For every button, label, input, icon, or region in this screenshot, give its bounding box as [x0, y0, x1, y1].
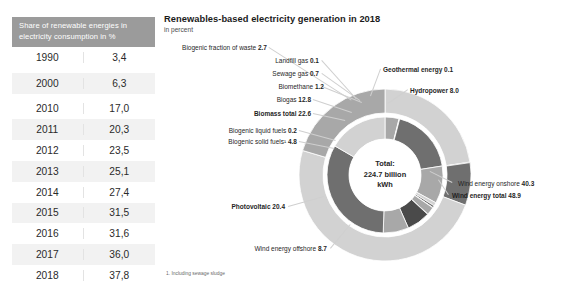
- label-biogas: Biogas 12.8: [200, 96, 311, 104]
- table-row: 201837,8: [12, 265, 155, 286]
- donut-svg: [298, 88, 472, 262]
- label-text: Biogenic liquid fuels: [229, 127, 286, 134]
- table-row: 20006,3: [12, 73, 155, 94]
- donut-chart: Total: 224.7 billion kWh: [298, 88, 472, 262]
- label-text: Biogas: [277, 96, 297, 103]
- label-sewage-gas: Sewage gas 0.7: [200, 70, 319, 78]
- table-row: 201427,4: [12, 182, 155, 203]
- label-wind-energy-onshore: Wind energy onshore 40.3: [458, 180, 534, 188]
- table-cell-value: 6,3: [84, 78, 156, 89]
- chart-title: Renewables-based electricity generation …: [164, 14, 380, 24]
- label-biogenic-liquid-fuels: Biogenic liquid fuels 0.2: [160, 127, 297, 135]
- label-geothermal-energy: Geothermal energy 0.1: [383, 66, 453, 74]
- label-wind-energy-offshore: Wind energy offshore 8.7: [180, 245, 327, 253]
- table-cell-value: 23,5: [84, 145, 156, 156]
- label-text: Wind energy total: [452, 192, 506, 199]
- table-cell-year: 2012: [12, 145, 84, 156]
- label-text: Biogenic fraction of waste: [182, 44, 256, 51]
- table-cell-year: 2017: [12, 249, 84, 260]
- label-value: 8.0: [450, 87, 459, 94]
- table-row: 201631,6: [12, 223, 155, 244]
- table-cell-value: 3,4: [84, 52, 156, 63]
- table-header: Share of renewable energies in electrici…: [12, 17, 155, 47]
- chart-subtitle: in percent: [164, 26, 193, 33]
- table-cell-year: 2000: [12, 78, 84, 89]
- table-cell-value: 25,1: [84, 166, 156, 177]
- label-hydropower: Hydropower 8.0: [410, 87, 459, 95]
- label-value: 1.2: [315, 83, 324, 90]
- table-cell-year: 2015: [12, 207, 84, 218]
- label-text: Geothermal energy: [383, 66, 442, 73]
- renewable-share-table: Share of renewable energies in electrici…: [12, 17, 155, 286]
- label-text: Wind energy offshore: [254, 245, 316, 252]
- label-biomethane: Biomethane 1.2: [200, 83, 324, 91]
- table-row: 19903,4: [12, 47, 155, 68]
- label-value: 4.8: [288, 138, 297, 145]
- label-biogenic-solid-fuels: Biogenic solid fuels¹ 4.8: [160, 138, 297, 146]
- label-value: 0.7: [310, 70, 319, 77]
- label-text: Biomass total: [254, 110, 297, 117]
- table-body: 19903,420006,3201017,0201120,3201223,520…: [12, 47, 155, 286]
- table-cell-year: 1990: [12, 52, 84, 63]
- table-cell-value: 17,0: [84, 103, 156, 114]
- label-value: 0.1: [444, 66, 453, 73]
- table-row: 201325,1: [12, 161, 155, 182]
- label-text: Biogenic solid fuels¹: [228, 138, 286, 145]
- table-cell-value: 20,3: [84, 124, 156, 135]
- label-text: Hydropower: [410, 87, 448, 94]
- table-cell-year: 2016: [12, 228, 84, 239]
- table-cell-value: 36,0: [84, 249, 156, 260]
- label-value: 0.2: [288, 127, 297, 134]
- donut-center-hole: [349, 139, 421, 211]
- label-text: Sewage gas: [272, 70, 308, 77]
- table-cell-year: 2011: [12, 124, 84, 135]
- label-value: 40.3: [522, 180, 535, 187]
- label-text: Landfill gas: [275, 57, 308, 64]
- table-cell-value: 31,6: [84, 228, 156, 239]
- table-cell-year: 2018: [12, 270, 84, 281]
- label-landfill-gas: Landfill gas 0.1: [200, 57, 319, 65]
- table-row: 201017,0: [12, 99, 155, 120]
- label-value: 2.7: [258, 44, 267, 51]
- label-value: 12.8: [298, 96, 311, 103]
- label-value: 8.7: [318, 245, 327, 252]
- table-row: 201223,5: [12, 140, 155, 161]
- table-cell-year: 2010: [12, 103, 84, 114]
- label-photovoltaic: Photovoltaic 20.4: [160, 203, 285, 211]
- label-text: Photovoltaic: [232, 203, 271, 210]
- table-cell-year: 2014: [12, 187, 84, 198]
- label-text: Biomethane: [278, 83, 313, 90]
- label-biogenic-fraction-of-waste: Biogenic fraction of waste 2.7: [150, 44, 267, 52]
- label-text: Wind energy onshore: [458, 180, 520, 187]
- label-value: 22.6: [298, 110, 311, 117]
- table-cell-year: 2013: [12, 166, 84, 177]
- chart-footnote: 1. Including sewage sludge: [166, 271, 225, 276]
- table-cell-value: 31,5: [84, 207, 156, 218]
- table-row: 201736,0: [12, 244, 155, 265]
- table-row: 201531,5: [12, 203, 155, 224]
- label-value: 48.9: [508, 192, 521, 199]
- table-cell-value: 37,8: [84, 270, 156, 281]
- label-value: 20.4: [272, 203, 285, 210]
- label-value: 0.1: [310, 57, 319, 64]
- label-wind-energy-total: Wind energy total 48.9: [452, 192, 521, 200]
- table-row: 201120,3: [12, 119, 155, 140]
- table-cell-value: 27,4: [84, 187, 156, 198]
- label-biomass-total: Biomass total 22.6: [180, 110, 311, 118]
